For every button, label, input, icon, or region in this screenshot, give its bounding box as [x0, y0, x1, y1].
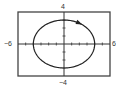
- y-min-label: −4: [59, 79, 67, 86]
- x-min-label: −6: [4, 40, 12, 47]
- y-max-label: 4: [61, 3, 65, 10]
- parametric-plot: 4 −4 −6 6: [0, 0, 116, 87]
- direction-arrow-icon: [75, 20, 82, 25]
- x-max-label: 6: [112, 40, 116, 47]
- plot-canvas: [0, 0, 116, 87]
